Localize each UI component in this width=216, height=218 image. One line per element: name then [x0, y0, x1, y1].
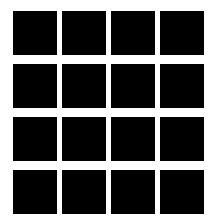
grid-square	[62, 11, 106, 55]
grid-square	[111, 11, 155, 55]
grid-square	[111, 117, 155, 161]
square-grid	[13, 11, 203, 206]
grid-square	[160, 117, 204, 161]
grid-square	[160, 11, 204, 55]
grid-square	[13, 64, 57, 108]
grid-square	[111, 64, 155, 108]
grid-square	[62, 170, 106, 214]
grid-square	[62, 64, 106, 108]
image-canvas: Grid of black squares	[0, 0, 216, 218]
grid-square	[160, 64, 204, 108]
grid-square	[62, 117, 106, 161]
grid-square	[13, 117, 57, 161]
grid-square	[13, 11, 57, 55]
grid-square	[13, 170, 57, 214]
grid-square	[160, 170, 204, 214]
grid-square	[111, 170, 155, 214]
